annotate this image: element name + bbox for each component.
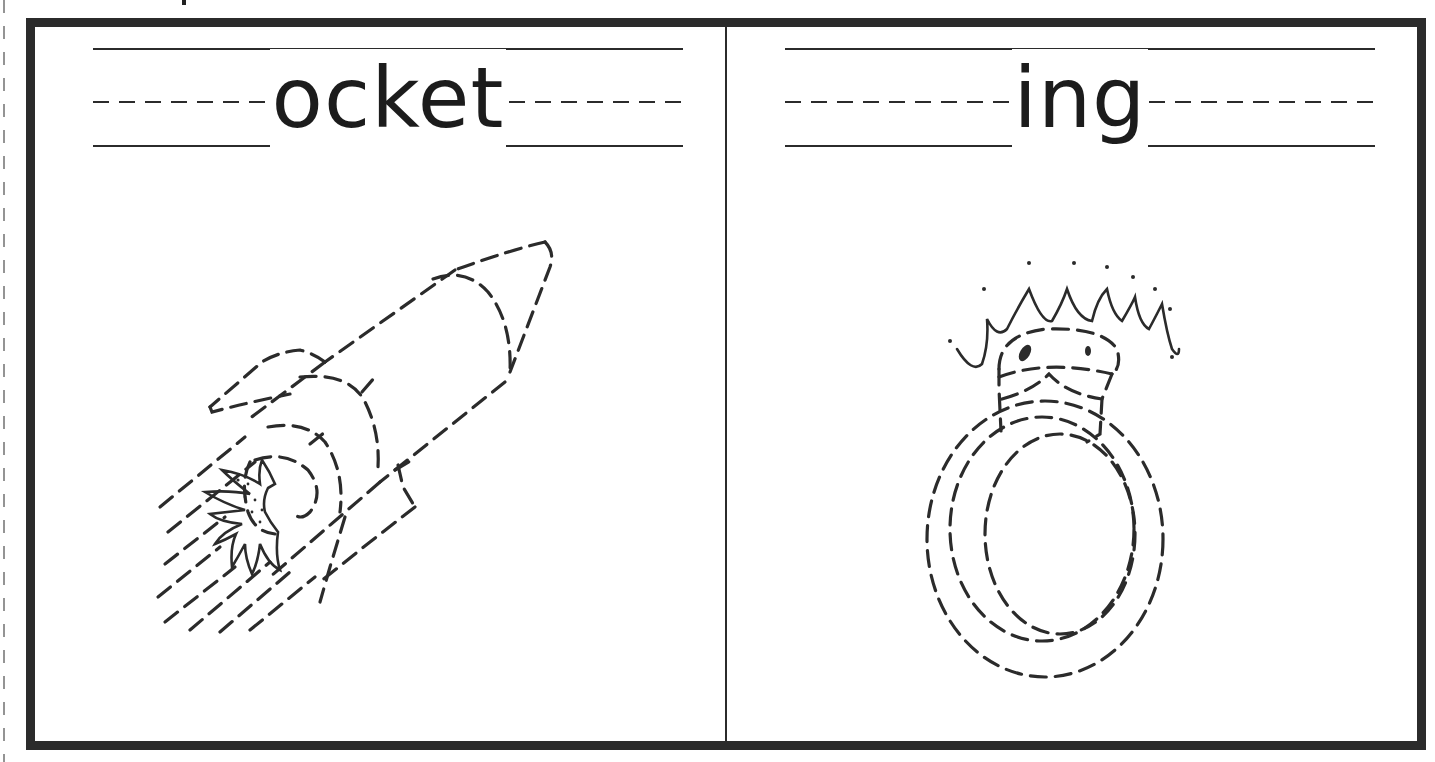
word-text: ing — [1012, 49, 1149, 147]
rocket-tracing-icon — [150, 222, 650, 682]
ring-tracing-icon — [917, 249, 1207, 679]
registration-mark — [182, 0, 186, 5]
handwriting-guide: ocket — [93, 48, 683, 148]
cut-line — [3, 0, 5, 762]
panel-ring: ing — [725, 27, 1417, 741]
word-label: ocket — [93, 50, 683, 146]
word-label: ing — [785, 50, 1375, 146]
worksheet-frame: ocket — [26, 18, 1426, 750]
word-text: ocket — [270, 49, 507, 147]
handwriting-guide: ing — [785, 48, 1375, 148]
panel-rocket: ocket — [35, 27, 725, 741]
